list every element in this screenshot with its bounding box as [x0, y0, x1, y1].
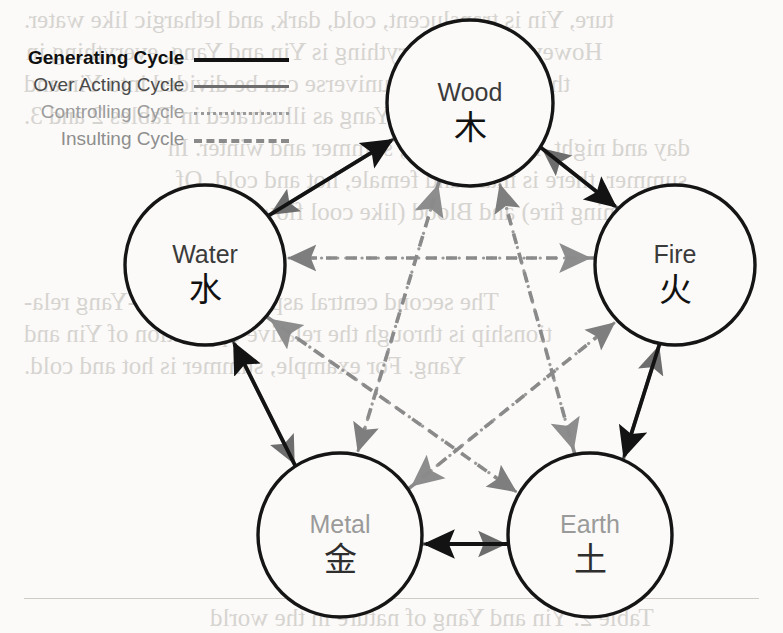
legend-item-controlling: Controlling Cycle [28, 98, 289, 125]
node-label-earth: Earth [560, 510, 620, 538]
legend-swatch-generating [194, 51, 289, 65]
legend-item-insulting: Insulting Cycle [28, 125, 289, 152]
node-label-water: Water [172, 240, 238, 268]
edge-generating-fire-to-earth [624, 341, 660, 456]
node-wood[interactable]: Wood木 [387, 20, 553, 186]
legend-label-generating: Generating Cycle [28, 47, 194, 69]
legend-swatch-controlling [194, 105, 289, 119]
node-label-wood: Wood [438, 78, 503, 106]
edge-insulting-earth-to-wood [501, 187, 576, 456]
legend-label-controlling: Controlling Cycle [41, 101, 195, 123]
node-earth[interactable]: Earth土 [508, 453, 672, 617]
node-fire[interactable]: Fire火 [595, 185, 755, 345]
node-water[interactable]: Water水 [125, 185, 285, 345]
legend-label-insulting: Insulting Cycle [61, 128, 195, 150]
legend-item-over-acting: Over Acting Cycle [28, 71, 289, 98]
edge-generating-water-to-wood [266, 141, 391, 218]
legend-swatch-insulting [194, 132, 289, 146]
legend-item-generating: Generating Cycle [28, 44, 289, 71]
node-hanzi-fire: 火 [659, 270, 692, 309]
node-hanzi-wood: 木 [454, 108, 487, 147]
node-metal[interactable]: Metal金 [258, 453, 422, 617]
node-hanzi-metal: 金 [324, 540, 357, 579]
edge-generating-metal-to-water [235, 344, 297, 468]
node-label-fire: Fire [653, 240, 696, 268]
legend-swatch-over-acting [194, 78, 289, 92]
node-label-metal: Metal [309, 510, 370, 538]
node-hanzi-water: 水 [189, 270, 222, 309]
legend-label-over-acting: Over Acting Cycle [33, 74, 194, 96]
node-hanzi-earth: 土 [574, 540, 607, 579]
edge-generating-wood-to-fire [538, 146, 614, 206]
legend: Generating Cycle Over Acting Cycle Contr… [28, 44, 289, 152]
